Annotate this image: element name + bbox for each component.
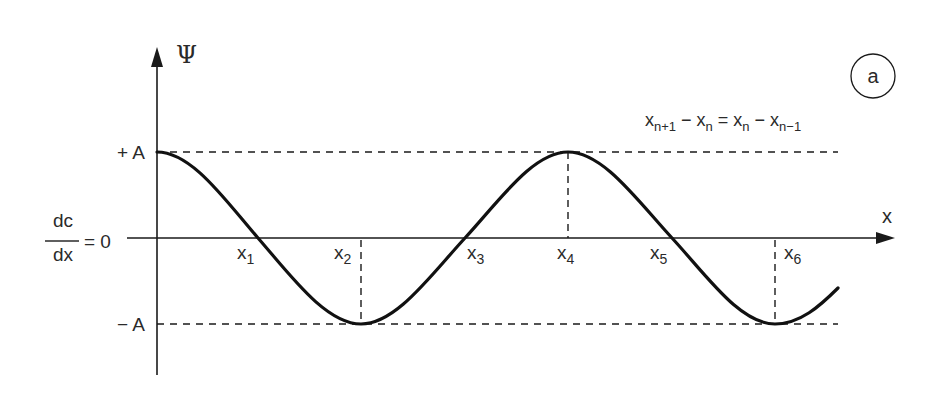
baseline-numerator: dc (53, 210, 73, 231)
point-label-x3: x3 (467, 242, 485, 267)
panel-label: a (867, 65, 879, 87)
point-label-x4: x4 (557, 242, 575, 267)
y-axis-arrow-icon (151, 47, 163, 67)
point-label-x5: x5 (650, 242, 668, 267)
baseline-equals-zero: = 0 (84, 231, 111, 252)
baseline-denominator: dx (53, 244, 74, 265)
point-label-x6: x6 (784, 242, 802, 267)
equation: xn+1 − xn = xn − xn−1 (645, 110, 801, 134)
plus-amplitude-label: + A (117, 142, 145, 163)
x-axis-label: x (882, 205, 892, 227)
minus-amplitude-label: − A (117, 314, 145, 335)
x-axis-arrow-icon (876, 232, 895, 244)
point-label-x1: x1 (237, 242, 255, 267)
point-label-x2: x2 (334, 242, 352, 267)
y-axis-label: Ψ (176, 41, 197, 69)
wave-diagram: a Ψ x + A − A dc dx = 0 xn+1 − xn = xn −… (0, 0, 946, 394)
